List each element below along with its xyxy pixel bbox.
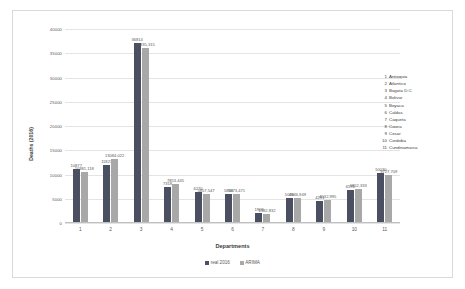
y-axis-tick-label: 0 (60, 221, 62, 226)
department-key-item: 3Bogota D.C (379, 87, 418, 94)
department-key-item: 2Atlantico (379, 80, 418, 87)
department-key-item: 4Bolivar (379, 94, 418, 101)
department-key-name: Antioquia (389, 74, 407, 79)
department-key-number: 11 (379, 144, 387, 151)
gridline (65, 53, 400, 54)
legend-entry[interactable]: ARIMA (240, 260, 260, 265)
bar-arima[interactable]: 10381,118 (81, 172, 88, 222)
x-axis-tick-label: 11 (377, 227, 392, 232)
department-key-number: 6 (379, 109, 387, 116)
bar-real[interactable]: 1909 (255, 213, 262, 222)
department-key-number: 1 (379, 73, 387, 80)
gridline (65, 29, 400, 30)
department-key-name: Atlantico (389, 81, 406, 86)
department-key-name: Cesar (389, 131, 401, 136)
x-axis-tick-label: 1 (73, 227, 88, 232)
bar-value-label: 5673,471 (228, 188, 245, 193)
department-key-item: 11Cundinamarca (379, 144, 418, 151)
department-key: 1Antioquia2Atlantico3Bogota D.C4Bolivar5… (379, 73, 418, 151)
bar-value-label: 4532,995 (319, 194, 336, 199)
y-axis-tick-label: 25000 (50, 99, 62, 104)
department-key-number: 8 (379, 123, 387, 130)
department-key-item: 8Cauca (379, 123, 418, 130)
bar-real[interactable]: 6576 (347, 190, 354, 222)
y-axis-tick-label: 5000 (52, 196, 62, 201)
department-key-name: Cauca (389, 124, 402, 129)
legend-label: ARIMA (245, 260, 260, 265)
bar-value-label: 1582,832 (258, 208, 275, 213)
department-key-item: 5Boyaca (379, 102, 418, 109)
department-key-name: Cordoba (389, 138, 406, 143)
bar-arima[interactable]: 4532,995 (324, 200, 331, 222)
x-axis-tick-label: 2 (103, 227, 118, 232)
y-axis-tick-label: 30000 (50, 75, 62, 80)
bar-value-label: 5857,547 (197, 188, 214, 193)
bar-arima[interactable]: 35835,315 (142, 48, 149, 222)
legend-swatch (205, 261, 209, 265)
y-axis-tick-label: 15000 (50, 148, 62, 153)
department-key-item: 1Antioquia (379, 73, 418, 80)
bar-real[interactable]: 11823 (103, 165, 110, 222)
y-axis-title: Deaths (2016) (28, 127, 34, 161)
bar-real[interactable]: 10030 (377, 173, 384, 222)
bar-real[interactable]: 36814 (134, 43, 141, 222)
department-key-name: Caldas (389, 110, 403, 115)
legend-swatch (240, 261, 244, 265)
x-axis-tick-label: 6 (225, 227, 240, 232)
gridline (65, 223, 400, 224)
y-axis-tick-label: 20000 (50, 124, 62, 129)
department-key-number: 9 (379, 130, 387, 137)
department-key-item: 10Cordoba (379, 137, 418, 144)
chart-container: Deaths (2016) 05000100001500020000250003… (12, 10, 453, 278)
gridline (65, 126, 400, 127)
bar-value-label: 6852,333 (350, 183, 367, 188)
gridline (65, 78, 400, 79)
department-key-name: Boyaca (389, 103, 404, 108)
x-axis-title: Departments (65, 243, 400, 249)
x-axis-tick-label: 5 (195, 227, 210, 232)
department-key-name: Caqueta (389, 117, 406, 122)
department-key-name: Bolivar (389, 95, 402, 100)
department-key-number: 3 (379, 87, 387, 94)
bar-value-label: 4946,949 (289, 192, 306, 197)
bar-arima[interactable]: 7853,445 (172, 184, 179, 222)
x-axis-tick-label: 9 (316, 227, 331, 232)
department-key-name: Bogota D.C (389, 88, 412, 93)
bar-arima[interactable]: 6852,333 (355, 189, 362, 222)
department-key-item: 6Caldas (379, 109, 418, 116)
x-axis-tick-label: 3 (134, 227, 149, 232)
bar-value-label: 13084,022 (105, 153, 124, 158)
bar-value-label: 9727,709 (380, 169, 397, 174)
bar-arima[interactable]: 5673,471 (233, 194, 240, 222)
bar-real[interactable]: 5030 (286, 198, 293, 222)
department-key-item: 9Cesar (379, 130, 418, 137)
x-axis-tick-label: 10 (347, 227, 362, 232)
bar-real[interactable]: 7318 (164, 187, 171, 222)
plot-area: 0500010000150002000025000300003500040000… (65, 29, 400, 223)
bar-arima[interactable]: 1582,832 (263, 214, 270, 222)
department-key-number: 10 (379, 137, 387, 144)
y-axis-tick-label: 35000 (50, 51, 62, 56)
legend-entry[interactable]: real 2016 (205, 260, 230, 265)
gridline (65, 102, 400, 103)
department-key-item: 7Caqueta (379, 116, 418, 123)
x-axis-tick-label: 7 (255, 227, 270, 232)
bar-real[interactable]: 10877 (73, 169, 80, 222)
gridline (65, 150, 400, 151)
bar-real[interactable]: 5833 (225, 194, 232, 222)
bar-arima[interactable]: 5857,547 (203, 194, 210, 222)
series-legend: real 2016ARIMA (65, 260, 400, 265)
y-axis-tick-label: 10000 (50, 172, 62, 177)
x-axis-tick-label: 4 (164, 227, 179, 232)
department-key-number: 5 (379, 102, 387, 109)
bar-real[interactable]: 4291 (316, 201, 323, 222)
bar-value-label: 10381,118 (75, 166, 94, 171)
bar-arima[interactable]: 13084,022 (111, 159, 118, 222)
legend-label: real 2016 (211, 260, 230, 265)
bar-arima[interactable]: 9727,709 (385, 175, 392, 222)
department-key-number: 7 (379, 116, 387, 123)
bar-real[interactable]: 6270 (195, 192, 202, 222)
bar-arima[interactable]: 4946,949 (294, 198, 301, 222)
x-axis-tick-label: 8 (286, 227, 301, 232)
department-key-number: 2 (379, 80, 387, 87)
